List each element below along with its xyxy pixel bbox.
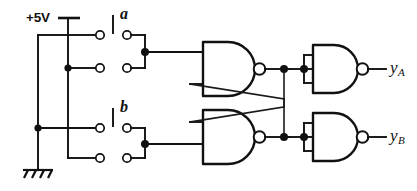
switch-b-contact-nc[interactable]	[96, 124, 104, 132]
switch-b-contact-lower-right[interactable]	[123, 154, 131, 162]
switch-b-label: b	[120, 99, 128, 115]
output-a-base: y	[390, 58, 398, 77]
output-a-subscript: A	[398, 66, 405, 78]
inverter-bottom-bubble	[357, 131, 369, 143]
junction-ground-mid	[34, 124, 41, 131]
ground-rail	[38, 35, 95, 170]
supply-label: +5V	[26, 11, 50, 25]
circuit-diagram: +5V a b yA yB	[0, 0, 417, 191]
nand-gate-top	[190, 42, 290, 96]
switch-a-output-net	[141, 48, 203, 56]
switch-a-contact-no[interactable]	[123, 31, 131, 39]
switch-a-contact-lower-right[interactable]	[123, 64, 131, 72]
inverter-top-bubble	[357, 63, 369, 75]
nand-inverter-bottom	[304, 113, 386, 161]
supply-rail	[68, 35, 96, 158]
nand-top-bubble	[254, 63, 266, 75]
output-node-b	[280, 133, 313, 141]
switch-a-label: a	[120, 6, 128, 22]
switch-a-contact-lower-left[interactable]	[96, 64, 104, 72]
junction-supply-mid	[64, 64, 71, 71]
output-node-a	[280, 65, 313, 73]
output-b-base: y	[390, 126, 398, 145]
switch-b-contact-lower-left[interactable]	[96, 154, 104, 162]
nand-inverter-top	[304, 45, 386, 93]
schematic-canvas	[0, 0, 417, 191]
switch-b[interactable]	[96, 109, 145, 162]
nand-bottom-bubble	[254, 131, 266, 143]
switch-b-contact-no[interactable]	[123, 124, 131, 132]
supply-terminal	[58, 18, 80, 35]
switch-a[interactable]	[96, 16, 145, 72]
switch-a-contact-nc[interactable]	[96, 31, 104, 39]
output-label-a: yA	[390, 59, 404, 76]
output-label-b: yB	[390, 127, 404, 144]
ground-icon	[23, 170, 53, 178]
output-b-subscript: B	[398, 134, 405, 146]
nand-gate-bottom	[190, 110, 290, 164]
switch-b-output-net	[141, 140, 203, 148]
